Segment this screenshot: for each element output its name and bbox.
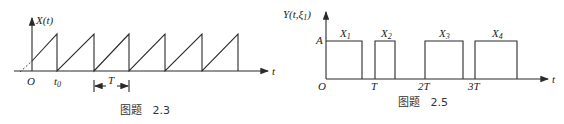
extrapolation-dash bbox=[20, 61, 32, 72]
y-axis-label: Y(t,ξ1) bbox=[283, 8, 311, 22]
pulse-label-x3: X3 bbox=[438, 27, 450, 41]
pulse-label-x2: X2 bbox=[380, 27, 392, 41]
tick-T: T bbox=[371, 80, 378, 92]
pulse-x3 bbox=[425, 41, 463, 79]
figure-2-5: Y(t,ξ1) t A O T 2T 3T X1 X2 X3 X4 图题 2.5 bbox=[283, 8, 556, 109]
caption: 图题 2.5 bbox=[398, 96, 448, 109]
pulse-x1 bbox=[326, 41, 362, 79]
period-label: T bbox=[108, 74, 115, 86]
pulse-x4 bbox=[475, 41, 517, 79]
origin-label: O bbox=[318, 80, 326, 92]
tick-2T: 2T bbox=[418, 80, 431, 92]
t0-label: t0 bbox=[54, 75, 61, 89]
origin-label: O bbox=[27, 75, 35, 87]
pulse-label-x1: X1 bbox=[339, 27, 351, 41]
pulse-x2 bbox=[375, 41, 395, 79]
figures-canvas: X(t) t O t0 T 图题 2.3 Y(t,ξ1) t A O T 2T … bbox=[0, 0, 564, 124]
pulse-label-x4: X4 bbox=[491, 27, 503, 41]
y-axis-label: X(t) bbox=[35, 14, 53, 27]
sawtooth-waveform bbox=[32, 34, 238, 71]
x-axis-label: t bbox=[552, 73, 556, 85]
figure-2-3: X(t) t O t0 T 图题 2.3 bbox=[14, 14, 276, 117]
tick-3T: 3T bbox=[467, 80, 481, 92]
level-a-label: A bbox=[315, 34, 323, 46]
caption: 图题 2.3 bbox=[120, 104, 170, 117]
x-axis-label: t bbox=[272, 65, 276, 77]
